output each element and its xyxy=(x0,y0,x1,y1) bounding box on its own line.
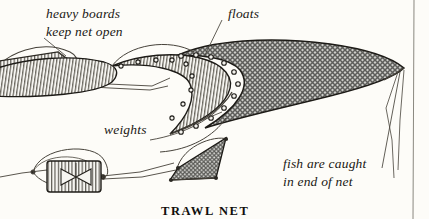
label-heavy-boards-line2: keep net open xyxy=(46,24,123,39)
figure-title: TRAWL NET xyxy=(161,204,249,218)
label-heavy-boards-line1: heavy boards xyxy=(46,6,120,21)
label-weights: weights xyxy=(104,122,147,137)
label-floats: floats xyxy=(228,6,259,21)
label-fish-line1: fish are caught xyxy=(283,156,368,171)
trawl-net-figure: heavy boards keep net open floats weight… xyxy=(0,0,429,219)
label-fish-line2: in end of net xyxy=(283,174,354,189)
